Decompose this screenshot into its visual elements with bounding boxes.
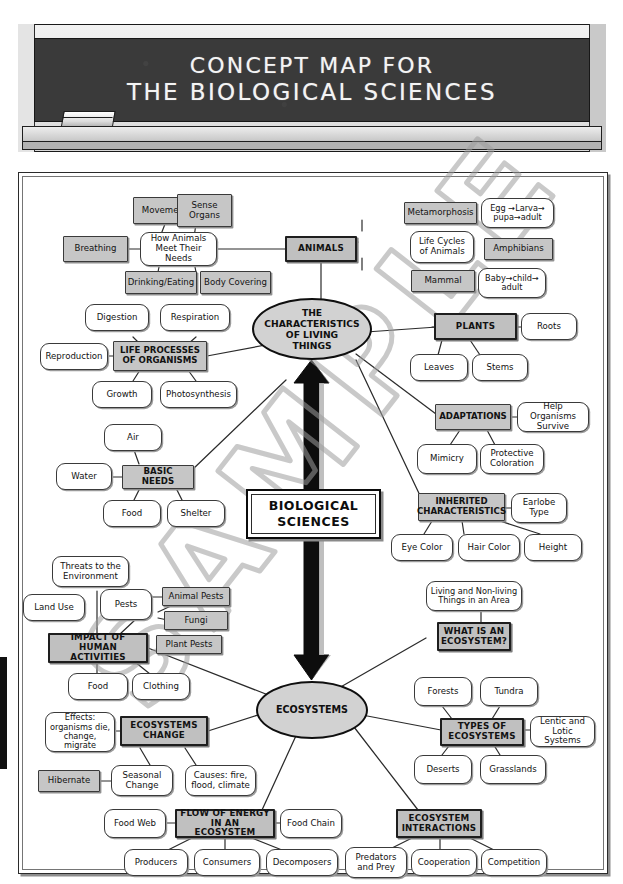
node-drinking-eating[interactable]: Drinking/Eating	[125, 271, 197, 294]
node-food-web[interactable]: Food Web	[104, 809, 166, 838]
node-land-use[interactable]: Land Use	[23, 594, 85, 621]
node-living-and-non-living-things[interactable]: Living and Non-living Things in an Area	[426, 581, 522, 611]
node-stems[interactable]: Stems	[472, 354, 528, 381]
node-what-is-an-ecosystem[interactable]: WHAT IS AN ECOSYSTEM?	[437, 622, 511, 651]
node-photosynthesis[interactable]: Photosynthesis	[160, 381, 237, 408]
node-baby-child-adult[interactable]: Baby→child→ adult	[478, 268, 546, 298]
node-body-covering[interactable]: Body Covering	[200, 271, 271, 294]
node-fungi[interactable]: Fungi	[164, 611, 228, 630]
node-mimicry[interactable]: Mimicry	[417, 444, 477, 474]
node-respiration[interactable]: Respiration	[160, 304, 230, 331]
node-animal-pests[interactable]: Animal Pests	[162, 587, 230, 606]
node-life-cycles-of-animals[interactable]: Life Cycles of Animals	[410, 231, 474, 263]
node-height[interactable]: Height	[524, 534, 582, 561]
node-the-characteristics-of-living-things[interactable]: THE CHARACTERISTICS OF LIVING THINGS	[252, 298, 372, 360]
board-title-line-1: CONCEPT MAP FOR	[190, 53, 435, 79]
node-protective-coloration[interactable]: Protective Coloration	[480, 444, 544, 474]
node-hair-color[interactable]: Hair Color	[458, 534, 520, 561]
node-reproduction[interactable]: Reproduction	[40, 343, 108, 370]
node-cooperation[interactable]: Cooperation	[411, 849, 477, 876]
node-how-animals-meet-their-needs[interactable]: How Animals Meet Their Needs	[140, 232, 217, 266]
node-lentic-and-lotic-systems[interactable]: Lentic and Lotic Systems	[530, 716, 595, 747]
node-amphibians[interactable]: Amphibians	[484, 238, 553, 260]
node-adaptations[interactable]: ADAPTATIONS	[435, 404, 511, 430]
node-egg-larva-pupa-adult[interactable]: Egg →Larva→ pupa→adult	[481, 198, 554, 228]
node-food-basic-needs[interactable]: Food	[103, 500, 161, 527]
node-leaves[interactable]: Leaves	[410, 354, 468, 381]
node-grasslands[interactable]: Grasslands	[480, 755, 546, 784]
node-consumers[interactable]: Consumers	[194, 849, 260, 876]
node-life-processes-of-organisms[interactable]: LIFE PROCESSES OF ORGANISMS	[113, 341, 207, 371]
node-types-of-ecosystems[interactable]: TYPES OF ECOSYSTEMS	[440, 718, 524, 746]
node-mammal[interactable]: Mammal	[411, 270, 475, 292]
node-tundra[interactable]: Tundra	[480, 677, 538, 706]
node-ecosystems[interactable]: ECOSYSTEMS	[256, 681, 368, 739]
node-competition[interactable]: Competition	[481, 849, 547, 876]
node-sense-organs[interactable]: Sense Organs	[177, 194, 232, 227]
node-plants[interactable]: PLANTS	[434, 313, 517, 340]
node-decomposers[interactable]: Decomposers	[266, 849, 338, 876]
node-growth[interactable]: Growth	[92, 381, 152, 408]
node-digestion[interactable]: Digestion	[85, 304, 149, 331]
chalkboard-header: CONCEPT MAP FOR THE BIOLOGICAL SCIENCES	[18, 24, 606, 152]
node-forests[interactable]: Forests	[414, 677, 472, 706]
node-food-impact[interactable]: Food	[68, 673, 128, 700]
node-food-chain[interactable]: Food Chain	[280, 809, 342, 838]
chalkboard-tray-base	[22, 141, 602, 150]
board-title-line-2: THE BIOLOGICAL SCIENCES	[127, 79, 497, 106]
node-producers[interactable]: Producers	[124, 849, 188, 876]
node-metamorphosis[interactable]: Metamorphosis	[404, 202, 477, 224]
page-edge-bar	[0, 657, 7, 769]
node-water[interactable]: Water	[56, 463, 112, 490]
node-hibernate[interactable]: Hibernate	[38, 770, 100, 792]
node-ecosystem-interactions[interactable]: ECOSYSTEM INTERACTIONS	[396, 809, 482, 838]
node-biological-sciences[interactable]: BIOLOGICAL SCIENCES	[246, 489, 381, 539]
node-threats-to-the-environment[interactable]: Threats to the Environment	[52, 556, 129, 587]
node-roots[interactable]: Roots	[521, 313, 577, 340]
node-causes-fire-flood-climate[interactable]: Causes: fire, flood, climate	[185, 765, 256, 796]
node-inherited-characteristics[interactable]: INHERITED CHARACTERISTICS	[418, 493, 505, 521]
node-clothing[interactable]: Clothing	[132, 673, 190, 700]
node-plant-pests[interactable]: Plant Pests	[156, 635, 222, 654]
chalkboard-slate: CONCEPT MAP FOR THE BIOLOGICAL SCIENCES	[34, 38, 590, 122]
node-breathing[interactable]: Breathing	[63, 236, 128, 262]
node-flow-of-energy-in-an-ecosystem[interactable]: FLOW OF ENERGY IN AN ECOSYSTEM	[175, 809, 275, 838]
node-eye-color[interactable]: Eye Color	[391, 534, 453, 561]
node-effects-organisms[interactable]: Effects: organisms die, change, migrate	[45, 712, 115, 752]
node-predators-and-prey[interactable]: Predators and Prey	[345, 847, 407, 878]
node-impact-of-human-activities[interactable]: IMPACT OF HUMAN ACTIVITIES	[48, 633, 148, 663]
node-help-organisms-survive[interactable]: Help Organisms Survive	[517, 402, 589, 432]
node-animals[interactable]: ANIMALS	[285, 236, 357, 262]
node-shelter[interactable]: Shelter	[167, 500, 225, 527]
node-pests[interactable]: Pests	[100, 589, 152, 620]
node-air[interactable]: Air	[104, 424, 162, 451]
node-ecosystems-change[interactable]: ECOSYSTEMS CHANGE	[120, 716, 208, 746]
node-seasonal-change[interactable]: Seasonal Change	[111, 765, 173, 796]
node-biological-sciences-label: BIOLOGICAL SCIENCES	[269, 498, 359, 529]
node-earlobe-type[interactable]: Earlobe Type	[511, 493, 567, 523]
node-basic-needs[interactable]: BASIC NEEDS	[122, 465, 194, 489]
node-deserts[interactable]: Deserts	[414, 755, 472, 784]
